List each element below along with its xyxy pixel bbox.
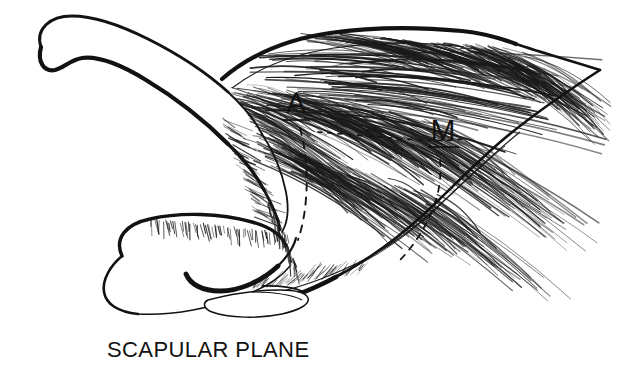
hatch-tick — [278, 221, 279, 228]
hatch-tick — [275, 234, 276, 245]
label-A: A — [286, 86, 306, 119]
scapular-plane-illustration: A M SCAPULAR PLANE — [0, 0, 626, 372]
figure-caption: SCAPULAR PLANE — [107, 337, 309, 362]
anatomical-figure: A M SCAPULAR PLANE — [0, 0, 626, 372]
hatch-tick — [189, 222, 190, 232]
hatch-tick — [151, 220, 152, 236]
label-group-M: M — [428, 113, 459, 147]
label-M: M — [431, 113, 456, 146]
label-group-A: A — [283, 86, 310, 120]
